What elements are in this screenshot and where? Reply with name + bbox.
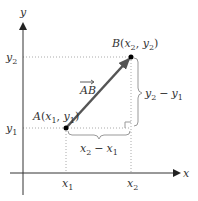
- vertical-brace-shape: [134, 58, 142, 126]
- x-axis-label: x: [183, 167, 190, 180]
- horizontal-brace-shape: [68, 131, 130, 139]
- point-b-label: B(x2, y2): [111, 37, 158, 52]
- vertical-brace: y2−y1: [134, 58, 183, 126]
- point-a: A(x1, y1): [32, 110, 79, 131]
- y1-tick-label: y1: [5, 122, 17, 137]
- vertical-brace-label: y2−y1: [144, 87, 183, 102]
- x2-tick-label: x2: [127, 177, 138, 192]
- horizontal-brace: x2−x1: [68, 131, 130, 157]
- point-a-label: A(x1, y1): [32, 110, 79, 125]
- point-a-dot: [64, 126, 69, 131]
- axes: y x: [10, 6, 190, 195]
- point-b-dot: [129, 55, 134, 60]
- right-angle-marker: [125, 122, 131, 128]
- vector-diagram: y x y2 y1 x1 x2 x2−x1 y2−y1: [0, 0, 198, 201]
- vector-ab-label: AB: [79, 80, 96, 97]
- x1-tick-label: x1: [62, 177, 73, 192]
- y2-tick-label: y2: [5, 51, 17, 66]
- vector-ab-text: AB: [79, 84, 96, 97]
- horizontal-brace-label: x2−x1: [80, 142, 118, 157]
- point-b: B(x2, y2): [111, 37, 158, 60]
- y-axis-label: y: [19, 6, 27, 19]
